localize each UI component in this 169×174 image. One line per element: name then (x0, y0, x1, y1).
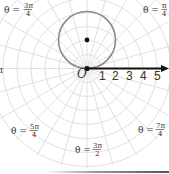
svg-text:π: π (0, 65, 3, 75)
tick-3: 3 (126, 69, 133, 83)
polar-grid (0, 0, 169, 169)
svg-text:4: 4 (162, 10, 167, 18)
angle-label-3pi-2: θ = 3π 2 (75, 142, 102, 158)
tick-5: 5 (154, 69, 161, 83)
svg-text:θ =: θ = (4, 5, 20, 15)
svg-text:7π: 7π (156, 122, 165, 130)
circle-center-point (85, 38, 90, 43)
bottom-rule (45, 171, 169, 173)
svg-text:θ =: θ = (75, 145, 91, 155)
axis-arrow-icon (161, 65, 169, 72)
svg-text:θ =: θ = (11, 126, 27, 136)
svg-text:π: π (162, 2, 167, 10)
svg-text:4: 4 (158, 130, 163, 138)
svg-text:5π: 5π (30, 123, 39, 131)
svg-text:3π: 3π (93, 142, 102, 150)
svg-text:4: 4 (26, 10, 31, 18)
svg-text:4: 4 (32, 131, 37, 139)
tick-1: 1 (99, 69, 106, 83)
angle-label-pi-4: θ = π 4 (143, 2, 167, 18)
tick-4: 4 (140, 69, 147, 83)
origin-label: O (77, 67, 87, 81)
angle-label-3pi-4: θ = 3π 4 (4, 2, 33, 18)
angle-label-7pi-4: θ = 7π 4 (138, 122, 165, 138)
svg-text:θ =: θ = (138, 125, 154, 135)
tick-2: 2 (112, 69, 119, 83)
svg-text:θ =: θ = (143, 5, 159, 15)
angle-label-pi: π (0, 65, 3, 75)
svg-text:3π: 3π (24, 2, 33, 10)
polar-graph: O 1 2 3 4 5 θ = 3π 4 θ = π 4 π θ = 5π 4 … (0, 0, 169, 174)
svg-text:2: 2 (95, 150, 99, 158)
angle-label-5pi-4: θ = 5π 4 (11, 123, 39, 139)
